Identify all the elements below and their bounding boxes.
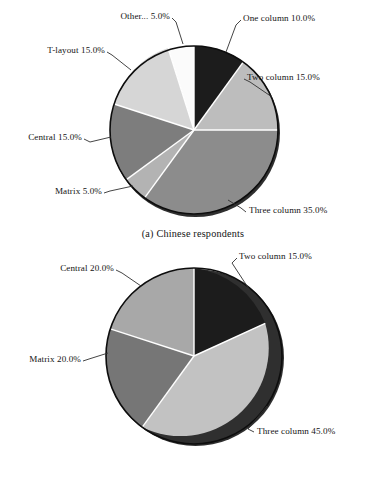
panel-chinese-respondents: Other... 5.0% One column 10.0% T-layout … <box>0 0 386 246</box>
callout-other: Other... 5.0% <box>120 11 170 21</box>
callout-one-column: One column 10.0% <box>243 13 315 23</box>
callout-three-column: Three column 45.0% <box>257 426 335 436</box>
panel-czech-respondents: Two column 15.0% Central 20.0% Matrix 20… <box>0 246 386 488</box>
callout-three-column: Three column 35.0% <box>249 205 327 215</box>
figure-pie-charts: Other... 5.0% One column 10.0% T-layout … <box>0 0 386 488</box>
callout-central: Central 20.0% <box>60 263 114 273</box>
callout-t-layout: T-layout 15.0% <box>47 45 105 55</box>
panel-caption-chinese: (a) Chinese respondents <box>0 228 386 239</box>
pie-chart-chinese <box>0 0 386 246</box>
callout-matrix: Matrix 20.0% <box>29 354 81 364</box>
pie-chart-czech <box>0 246 386 488</box>
callout-central: Central 15.0% <box>28 132 82 142</box>
callout-two-column: Two column 15.0% <box>247 72 320 82</box>
callout-two-column: Two column 15.0% <box>239 251 312 261</box>
callout-matrix: Matrix 5.0% <box>55 186 102 196</box>
